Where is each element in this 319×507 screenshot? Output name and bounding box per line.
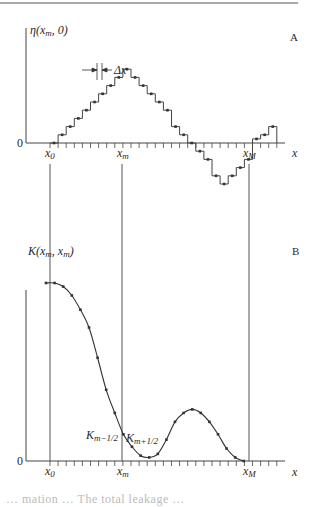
delta-x-indicator <box>82 63 112 80</box>
panel-a-label: A <box>290 32 298 43</box>
panel-b-label: B <box>292 246 299 257</box>
annot-k-minus: Km−1/2 <box>86 429 118 443</box>
panel-a-staircase <box>50 69 277 184</box>
annot-k-plus: Km+1/2 <box>126 432 158 446</box>
caption-fragment: … mation … The total leakage … <box>6 492 185 507</box>
guide-lines <box>50 164 249 461</box>
panel-b-xm: xm <box>117 465 129 479</box>
panel-a <box>26 28 285 185</box>
panel-b-zero: 0 <box>17 455 23 467</box>
delta-x-label: Δx <box>114 64 126 76</box>
panel-a-x-label: x <box>292 147 297 159</box>
panel-a-xm: xm <box>117 147 129 161</box>
panel-a-y-label: η(xm, 0) <box>30 24 68 38</box>
panel-a-x0: x0 <box>45 147 55 161</box>
panel-b-x-label: x <box>292 466 297 478</box>
panel-b-y-label: K(xm, xm) <box>28 245 74 259</box>
panel-a-markers <box>53 68 274 185</box>
panel-a-zero: 0 <box>17 137 23 149</box>
panel-a-xM: xM <box>243 147 256 161</box>
panel-b-x0: x0 <box>45 465 55 479</box>
panel-b-xM: xM <box>243 465 256 479</box>
